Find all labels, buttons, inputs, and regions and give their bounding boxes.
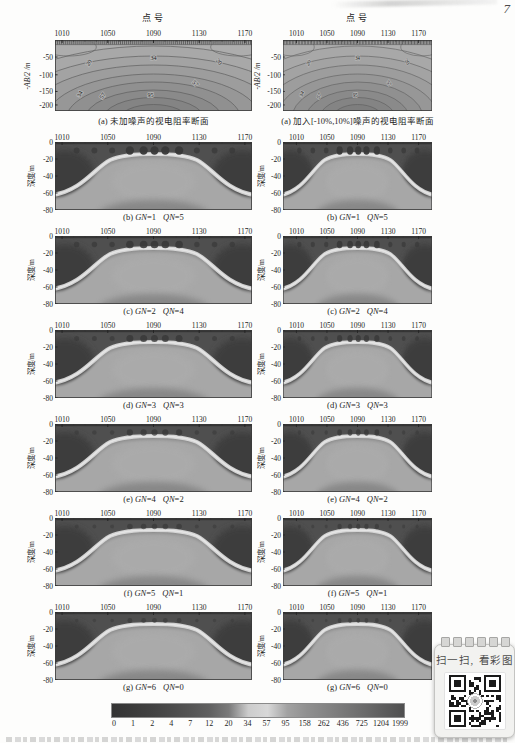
section-image [55,518,252,586]
section-y-axis-label: 深度/m [255,259,266,281]
x-tick-label: 1050 [319,603,334,612]
qr-box [444,672,506,730]
colorbar-tick-label: 2 [150,719,154,728]
caption-param-symbol: GN [339,682,351,692]
y-tick-label: 0 [28,420,53,429]
contour-caption: (a) 未加噪声的视电阻率断面 [25,114,282,126]
x-tick-label: 1130 [381,415,396,424]
x-tick-label: 1050 [319,29,334,38]
caption-panel-label: (e) [327,494,336,504]
caption-param-symbol: QN [367,400,379,410]
qr-perforation [453,637,462,647]
y-tick-label: -60 [256,283,281,292]
caption-param-value: =5 [350,588,359,598]
y-tick-label: 0 [256,420,281,429]
y-tick-label: -60 [256,471,281,480]
caption-param-value: =2 [379,494,388,504]
caption-param-value: =4 [175,306,184,316]
caption-param-symbol: GN [135,682,147,692]
section-plot [283,330,432,398]
caption-panel-label: (g) [327,682,337,692]
x-tick-label: 1010 [55,321,70,330]
x-tick-label: 1090 [350,509,365,518]
x-tick-label: 1050 [100,133,115,142]
section-y-axis-label: 深度/m [255,541,266,563]
y-tick-label: -60 [28,189,53,198]
section-plot [283,424,432,492]
y-tick-label: -60 [28,283,53,292]
caption-param-symbol: QN [163,212,175,222]
section-caption: (f) GN=5QN=1 [258,588,457,598]
caption-param-symbol: QN [367,682,379,692]
colorbar-tick-label: 262 [318,719,330,728]
section-y-axis-label: 深度/m [25,541,36,563]
colorbar-tick-label: 4 [169,719,173,728]
paper-page: 7 点号1010105010901130117020342034575795-5… [0,0,515,743]
x-tick-row: 10101050109011301170 [55,415,252,424]
y-tick-label: 0 [256,232,281,241]
y-tick-label: -20 [28,155,53,164]
qr-perforation [489,637,498,647]
caption-param-value: =2 [147,306,156,316]
caption-param-value: =0 [379,682,388,692]
colorbar-tick-label: 0 [112,719,116,728]
section-caption: (b) GN=1QN=5 [258,212,457,222]
x-tick-row: 10101050109011301170 [55,29,252,38]
x-tick-label: 1050 [100,29,115,38]
qr-perforation [465,637,474,647]
caption-param-value: =6 [351,682,360,692]
x-tick-label: 1010 [289,509,304,518]
caption-panel-label: (e) [123,494,132,504]
y-tick-label: -200 [256,100,281,109]
x-tick-label: 1050 [319,321,334,330]
x-tick-label: 1090 [350,227,365,236]
section-y-axis-label: 深度/m [25,447,36,469]
y-tick-label: -20 [28,249,53,258]
caption-param-value: =1 [174,588,183,598]
section-y-axis-label: 深度/m [25,635,36,657]
caption-param-symbol: QN [366,588,378,598]
section-plot [55,142,252,210]
y-tick-label: 0 [28,514,53,523]
y-tick-label: 0 [256,608,281,617]
caption-param-symbol: GN [135,306,147,316]
caption-param-value: =5 [175,212,184,222]
caption-param-value: =3 [175,400,184,410]
x-tick-label: 1170 [411,321,426,330]
section-plot [55,236,252,304]
contour-caption: (a) 加入[-10%,10%]噪声的视电阻率断面 [253,114,462,126]
caption-panel-label: (d) [123,400,133,410]
colorbar-tick-label: 1 [131,719,135,728]
section-plot [55,518,252,586]
section-image [283,518,432,586]
x-tick-label: 1170 [238,29,253,38]
x-tick-label: 1010 [289,29,304,38]
y-tick-label: 0 [28,232,53,241]
x-tick-label: 1050 [100,227,115,236]
section-y-axis-label: 深度/m [255,353,266,375]
colorbar-tick-label: 725 [356,719,368,728]
x-tick-label: 1010 [289,227,304,236]
y-tick-label: -60 [256,377,281,386]
caption-param-value: =1 [147,212,156,222]
x-tick-label: 1010 [289,603,304,612]
section-image [55,330,252,398]
y-tick-label: 0 [256,326,281,335]
x-tick-label: 1090 [350,133,365,142]
caption-param-value: =2 [351,306,360,316]
x-tick-row: 10101050109011301170 [283,603,432,612]
colorbar-tick-label: 95 [282,719,290,728]
x-tick-label: 1170 [238,321,253,330]
section-plot [55,424,252,492]
colorbar-tick-label: 20 [224,719,232,728]
x-tick-label: 1170 [411,29,426,38]
caption-param-value: =0 [175,682,184,692]
x-tick-label: 1090 [146,509,161,518]
qr-label: 扫一扫, 看彩图 [435,652,514,667]
page-number: 7 [504,1,511,17]
x-tick-label: 1170 [411,603,426,612]
caption-param-value: =6 [147,682,156,692]
x-tick-row: 10101050109011301170 [283,133,432,142]
caption-param-symbol: QN [163,400,175,410]
section-plot [283,518,432,586]
